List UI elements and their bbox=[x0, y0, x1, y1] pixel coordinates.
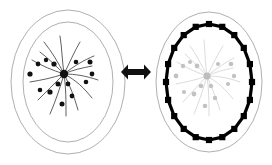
cortex-node bbox=[165, 97, 171, 103]
bidirectional-arrow bbox=[121, 65, 151, 80]
granule bbox=[47, 89, 52, 94]
granule bbox=[195, 64, 200, 69]
microtubule bbox=[60, 36, 64, 74]
granule bbox=[66, 82, 71, 87]
granule bbox=[51, 61, 56, 66]
cortex-node bbox=[171, 45, 177, 51]
diagram-svg bbox=[0, 0, 272, 165]
granule bbox=[226, 82, 230, 86]
granule bbox=[213, 96, 217, 100]
granule bbox=[209, 84, 213, 88]
right-aster-hub bbox=[203, 72, 210, 79]
granule bbox=[88, 60, 93, 65]
granule bbox=[56, 82, 61, 87]
microtubule bbox=[207, 58, 234, 76]
microtubule bbox=[64, 74, 66, 116]
microtubule bbox=[207, 68, 233, 76]
cortex-node bbox=[206, 21, 212, 27]
cortex-node bbox=[231, 32, 237, 38]
granule bbox=[192, 92, 197, 97]
granule bbox=[90, 72, 95, 77]
granule bbox=[36, 62, 41, 67]
figure-container bbox=[0, 0, 272, 165]
left-aster-granules bbox=[27, 58, 94, 107]
granule bbox=[44, 58, 48, 62]
granule bbox=[181, 64, 185, 68]
granule bbox=[229, 62, 234, 67]
left-aster-hub bbox=[60, 70, 68, 78]
granule bbox=[27, 71, 32, 76]
right-panel-cell-after bbox=[156, 12, 262, 152]
cortex-node bbox=[231, 126, 237, 132]
microtubule bbox=[64, 66, 92, 74]
right-cell-outer-membrane bbox=[156, 12, 262, 152]
granule bbox=[199, 84, 204, 89]
microtubule bbox=[207, 46, 223, 76]
granule bbox=[182, 90, 186, 94]
granule bbox=[174, 74, 179, 79]
cortex-node bbox=[241, 113, 247, 119]
granule bbox=[70, 94, 75, 99]
cortex-node bbox=[181, 32, 187, 38]
granule bbox=[84, 80, 89, 85]
granule bbox=[74, 60, 79, 65]
granule bbox=[232, 74, 236, 78]
granule bbox=[203, 104, 208, 109]
cortex-node bbox=[206, 137, 212, 143]
granule bbox=[188, 60, 192, 64]
cortex-node bbox=[247, 61, 253, 67]
cortex-node bbox=[219, 24, 225, 30]
cortex-node bbox=[181, 126, 187, 132]
cortex-node bbox=[193, 24, 199, 30]
arrow-icon bbox=[121, 65, 151, 80]
granule bbox=[216, 62, 220, 66]
right-cortex-nodes bbox=[163, 21, 255, 143]
cortex-node bbox=[165, 61, 171, 67]
cortex-node bbox=[171, 113, 177, 119]
left-panel-cell-before bbox=[11, 10, 125, 154]
microtubule bbox=[176, 76, 207, 84]
granule bbox=[38, 88, 43, 93]
cortex-node bbox=[249, 79, 255, 85]
cortex-node bbox=[219, 134, 225, 140]
cortex-node bbox=[247, 97, 253, 103]
microtubule bbox=[207, 76, 209, 116]
microtubule bbox=[30, 74, 64, 82]
granule bbox=[60, 102, 65, 107]
cortex-node bbox=[241, 45, 247, 51]
microtubule bbox=[177, 62, 207, 76]
cortex-node bbox=[163, 79, 169, 85]
cortex-node bbox=[193, 134, 199, 140]
microtubule bbox=[50, 74, 64, 114]
